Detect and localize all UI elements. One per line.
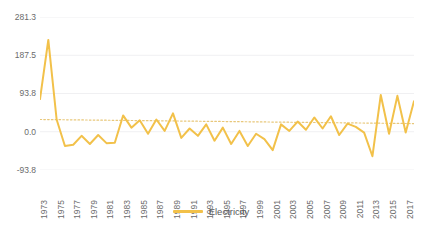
plot-area <box>40 17 414 170</box>
y-tick-label: -93.8 <box>0 166 36 175</box>
x-axis: 1973197519771979198119831985198719891991… <box>40 172 414 204</box>
y-tick-label: 93.8 <box>0 89 36 98</box>
series-line-electricity[interactable] <box>40 40 414 156</box>
y-axis: 281.3187.593.80.0-93.8 <box>0 0 36 180</box>
legend-label-electricity: Electricity <box>209 207 250 217</box>
y-tick-label: 281.3 <box>0 13 36 22</box>
gridlines <box>40 17 414 170</box>
y-tick-label: 187.5 <box>0 51 36 60</box>
y-tick-label: 0.0 <box>0 127 36 136</box>
line-chart: 281.3187.593.80.0-93.8 19731975197719791… <box>0 0 422 235</box>
chart-legend: Electricity <box>0 207 422 217</box>
plot-svg <box>40 17 414 170</box>
trendline <box>40 120 414 124</box>
legend-swatch-electricity <box>173 210 203 213</box>
